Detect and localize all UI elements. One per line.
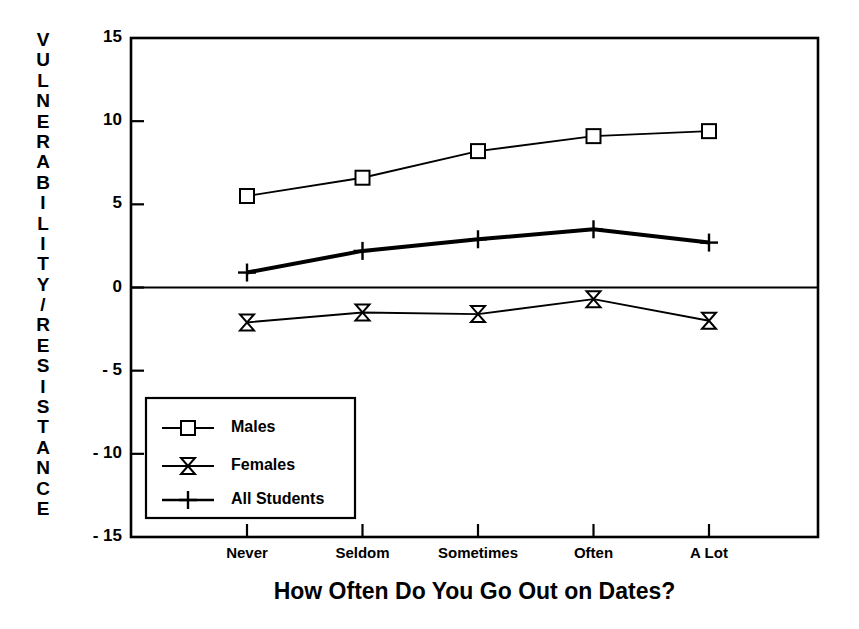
series-females [240,291,716,330]
legend-item-label: Males [231,418,275,436]
chart-figure: VULNERABILITY/RESISTANCE 151050- 5- 10- … [0,0,859,629]
series-all-students [238,220,718,281]
data-series-group [238,124,718,330]
series-males [240,124,716,203]
legend-item-label: All Students [231,490,324,508]
legend-item-label: Females [231,456,295,474]
plot-area [0,0,859,629]
